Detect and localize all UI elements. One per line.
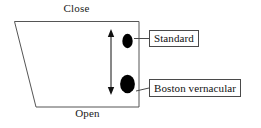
vowel-trapezoid-outline [15, 22, 140, 108]
axis-label-close: Close [0, 2, 153, 14]
axis-label-open: Open [0, 107, 175, 119]
callout-standard: Standard [149, 30, 199, 47]
boston-token-ellipse [120, 75, 135, 93]
boston-leader-line [136, 88, 149, 91]
standard-token-ellipse [122, 34, 132, 48]
vertical-double-headed-arrow [108, 29, 114, 95]
callout-boston-vernacular: Boston vernacular [149, 79, 241, 97]
vowel-space-diagram: Close Open Standard Boston vernacular [0, 0, 261, 128]
